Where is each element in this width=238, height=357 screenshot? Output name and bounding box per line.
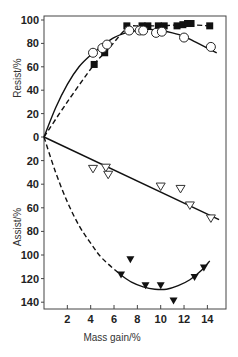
- x-tick-label: 14: [201, 313, 214, 325]
- y-tick-label: 40: [27, 84, 39, 96]
- open-triangle-marker: [206, 215, 215, 223]
- open-circle-marker: [139, 26, 148, 35]
- x-tick-label: 8: [134, 313, 140, 325]
- fit-curves: [44, 25, 219, 290]
- y-tick-label: 0: [33, 131, 39, 143]
- plot-border: [44, 16, 226, 309]
- open-triangle-marker: [176, 185, 185, 193]
- filled-square-marker: [206, 22, 213, 29]
- open-circle-marker: [89, 48, 98, 57]
- open-circle-marker: [206, 42, 215, 51]
- data-markers: [89, 20, 216, 305]
- open-circle-marker: [157, 27, 166, 36]
- y-tick-label: 60: [27, 202, 39, 214]
- y-tick-label: 100: [21, 249, 39, 261]
- y-tick-label: 120: [21, 273, 39, 285]
- filled-square-marker: [91, 61, 98, 68]
- chart: 246810121410080604020020406080100120140 …: [0, 0, 238, 357]
- y-tick-label: 100: [21, 14, 39, 26]
- filled-triangle-marker: [126, 256, 134, 263]
- x-tick-label: 10: [155, 313, 167, 325]
- x-tick-label: 6: [111, 313, 117, 325]
- x-tick-label: 2: [64, 313, 70, 325]
- y-tick-label: 80: [27, 225, 39, 237]
- y-axis-label-assist: Assist/%: [12, 208, 23, 246]
- x-tick-label: 12: [178, 313, 190, 325]
- y-tick-label: 140: [21, 296, 39, 308]
- filled-triangle-marker: [157, 282, 165, 289]
- open-circle-marker: [180, 33, 189, 42]
- open-circle-marker: [125, 26, 134, 35]
- plot-frame: [44, 16, 226, 309]
- open-triangle-marker: [89, 165, 98, 173]
- open-triangle-marker: [185, 202, 194, 210]
- y-tick-label: 80: [27, 37, 39, 49]
- y-tick-label: 40: [27, 178, 39, 190]
- filled-triangle-marker: [170, 298, 178, 305]
- y-tick-label: 20: [27, 155, 39, 167]
- open-circle-marker: [103, 40, 112, 49]
- fit-curve-dashed: [44, 137, 121, 275]
- y-tick-label: 60: [27, 61, 39, 73]
- y-tick-label: 20: [27, 108, 39, 120]
- x-axis-label: Mass gain/%: [83, 332, 140, 343]
- filled-triangle-marker: [191, 274, 199, 281]
- fit-curve: [44, 29, 217, 137]
- x-tick-label: 4: [88, 313, 95, 325]
- open-triangle-marker: [104, 171, 113, 179]
- open-triangle-marker: [156, 183, 165, 191]
- filled-square-marker: [188, 20, 195, 27]
- axis-ticks: 246810121410080604020020406080100120140: [21, 14, 215, 325]
- y-axis-label-resist: Resist/%: [12, 58, 23, 98]
